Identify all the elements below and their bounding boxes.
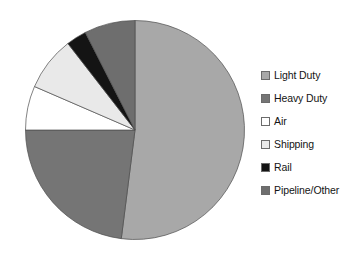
legend-label-pipeline-other: Pipeline/Other [274,185,339,196]
legend-item-rail[interactable]: Rail [261,156,361,179]
legend-swatch-shipping [261,140,270,149]
pie-chart-figure: Light DutyHeavy DutyAirShippingRailPipel… [0,0,363,256]
chart-legend: Light DutyHeavy DutyAirShippingRailPipel… [261,64,361,202]
pie-slice-group [26,21,245,240]
legend-label-air: Air [274,116,287,127]
pie-slice-light-duty[interactable] [121,21,244,240]
legend-item-heavy-duty[interactable]: Heavy Duty [261,87,361,110]
legend-label-shipping: Shipping [274,139,314,150]
legend-label-heavy-duty: Heavy Duty [274,93,327,104]
pie-svg [24,19,246,241]
pie-slice-heavy-duty[interactable] [26,130,136,239]
legend-label-rail: Rail [274,162,292,173]
legend-item-light-duty[interactable]: Light Duty [261,64,361,87]
legend-label-light-duty: Light Duty [274,70,320,81]
legend-item-air[interactable]: Air [261,110,361,133]
legend-item-shipping[interactable]: Shipping [261,133,361,156]
legend-item-pipeline-other[interactable]: Pipeline/Other [261,179,361,202]
legend-swatch-pipeline-other [261,186,270,195]
legend-swatch-light-duty [261,71,270,80]
legend-swatch-rail [261,163,270,172]
legend-swatch-heavy-duty [261,94,270,103]
pie-plot-area [24,19,246,241]
legend-swatch-air [261,117,270,126]
